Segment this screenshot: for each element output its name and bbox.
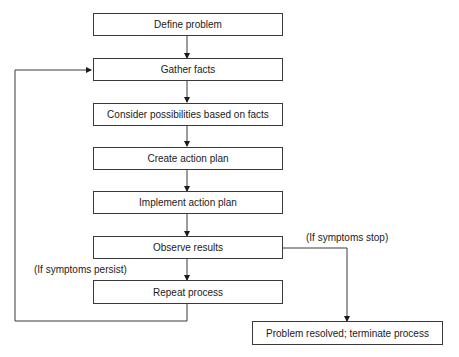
node-define-problem: Define problem xyxy=(93,13,283,36)
node-implement-action-plan: Implement action plan xyxy=(93,191,283,214)
node-gather-facts: Gather facts xyxy=(93,58,283,81)
node-create-action-plan: Create action plan xyxy=(93,147,283,170)
node-problem-resolved: Problem resolved; terminate process xyxy=(252,321,443,345)
node-observe-results: Observe results xyxy=(93,236,283,259)
node-label: Create action plan xyxy=(147,153,228,164)
edge-label-symptoms-stop: (If symptoms stop) xyxy=(306,232,388,243)
node-consider-possibilities: Consider possibilities based on facts xyxy=(93,103,283,126)
node-repeat-process: Repeat process xyxy=(93,280,283,304)
node-label: Repeat process xyxy=(153,287,223,298)
edge-label-symptoms-persist: (If symptoms persist) xyxy=(34,264,127,275)
node-label: Problem resolved; terminate process xyxy=(266,328,429,339)
node-label: Implement action plan xyxy=(139,197,237,208)
node-label: Consider possibilities based on facts xyxy=(107,109,269,120)
node-label: Define problem xyxy=(154,19,222,30)
flowchart-canvas: Define problem Gather facts Consider pos… xyxy=(0,0,459,357)
node-label: Observe results xyxy=(153,242,223,253)
node-label: Gather facts xyxy=(161,64,215,75)
